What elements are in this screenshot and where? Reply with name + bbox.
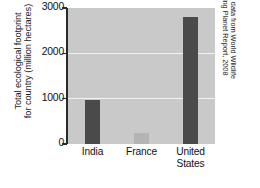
y-tick-label-0: 0	[20, 137, 64, 148]
source-note: Based on data from World Wildlife Fund, …	[216, 0, 242, 97]
x-tick-label-united-states: UnitedStates	[166, 146, 215, 170]
y-tick-label-1000: 1000	[20, 92, 64, 103]
x-tick-label-india: India	[68, 146, 117, 158]
plot-area	[68, 8, 215, 144]
x-axis-ticks: IndiaFranceUnitedStates	[68, 146, 215, 186]
y-tick-mark-3000	[62, 7, 67, 9]
x-tick-label-line: United	[166, 146, 215, 158]
source-note-line-1: Based on data from World Wildlife	[229, 0, 237, 97]
bar-united-states	[183, 17, 198, 144]
bar-france	[134, 133, 149, 144]
x-tick-label-france: France	[117, 146, 166, 158]
y-tick-mark-1000	[62, 98, 67, 100]
y-tick-label-2000: 2000	[20, 46, 64, 57]
bar-india	[85, 100, 100, 144]
x-tick-label-line: India	[68, 146, 117, 158]
y-tick-mark-0	[62, 143, 67, 145]
x-tick-label-line: States	[166, 158, 215, 170]
y-tick-label-3000: 3000	[20, 1, 64, 12]
x-tick-label-line: France	[117, 146, 166, 158]
chart-figure: Total ecological footprint for country (…	[0, 0, 260, 188]
y-tick-mark-2000	[62, 53, 67, 55]
y-axis-ticks: 0100020003000	[18, 0, 64, 188]
source-note-line-2: Fund, Living Planet Report, 2008	[221, 0, 229, 97]
